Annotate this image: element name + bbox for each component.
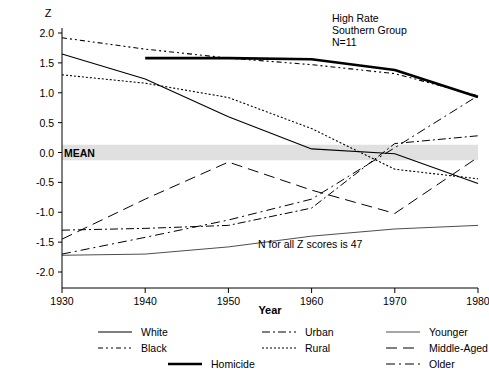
- x-tick-label: 1940: [134, 295, 158, 307]
- legend-label-younger: Younger: [429, 326, 468, 338]
- series-line-black: [62, 38, 478, 96]
- series-line-white: [62, 54, 478, 184]
- legend-item-homicide: Homicide: [168, 358, 255, 370]
- legend-label-urban: Urban: [305, 326, 334, 338]
- y-axis-title: Z: [45, 7, 52, 19]
- y-tick-label: -1.0: [36, 206, 54, 218]
- legend-item-middle-aged: Middle-Aged: [386, 342, 488, 354]
- y-tick-label: 2.0: [39, 27, 54, 39]
- y-tick-label: -0.5: [36, 176, 54, 188]
- annotation-n-all-z-scores: N for all Z scores is 47: [258, 238, 363, 250]
- y-tick-label: 0.5: [39, 117, 54, 129]
- series-line-older: [62, 96, 478, 254]
- annotation-southern-group: Southern Group: [332, 24, 407, 36]
- legend-item-rural: Rural: [262, 342, 330, 354]
- annotation-n-value: N=11: [332, 36, 357, 48]
- x-tick-label: 1960: [300, 295, 324, 307]
- y-tick-label: 1.5: [39, 57, 54, 69]
- series-line-middle-aged: [62, 157, 478, 239]
- legend-item-older: Older: [386, 358, 455, 370]
- chart-svg: 2.01.51.00.50.0-0.5-1.0-1.5-2.0 19301940…: [0, 0, 489, 382]
- y-axis-ticks: 2.01.51.00.50.0-0.5-1.0-1.5-2.0: [36, 27, 62, 278]
- mean-label: MEAN: [64, 147, 95, 159]
- legend-item-white: White: [98, 326, 168, 338]
- legend: WhiteBlackUrbanRuralYoungerMiddle-AgedOl…: [98, 326, 488, 370]
- legend-item-younger: Younger: [386, 326, 468, 338]
- legend-label-white: White: [141, 326, 168, 338]
- x-tick-label: 1980: [466, 295, 489, 307]
- x-tick-label: 1930: [50, 295, 74, 307]
- legend-label-homicide: Homicide: [211, 358, 255, 370]
- x-tick-label: 1950: [217, 295, 241, 307]
- y-tick-label: -2.0: [36, 266, 54, 278]
- y-tick-label: -1.5: [36, 236, 54, 248]
- legend-item-black: Black: [98, 342, 167, 354]
- y-tick-label: 0.0: [39, 147, 54, 159]
- chart-figure: 2.01.51.00.50.0-0.5-1.0-1.5-2.0 19301940…: [0, 0, 489, 382]
- x-tick-label: 1970: [383, 295, 407, 307]
- legend-label-black: Black: [141, 342, 167, 354]
- x-axis-title: Year: [258, 304, 282, 316]
- annotation-high-rate: High Rate: [332, 12, 379, 24]
- legend-label-rural: Rural: [305, 342, 330, 354]
- y-tick-label: 1.0: [39, 87, 54, 99]
- legend-label-older: Older: [429, 358, 455, 370]
- series-line-homicide: [145, 58, 478, 97]
- mean-reference-band: [62, 145, 478, 161]
- series-line-rural: [62, 75, 478, 179]
- legend-label-middle-aged: Middle-Aged: [429, 342, 488, 354]
- legend-item-urban: Urban: [262, 326, 334, 338]
